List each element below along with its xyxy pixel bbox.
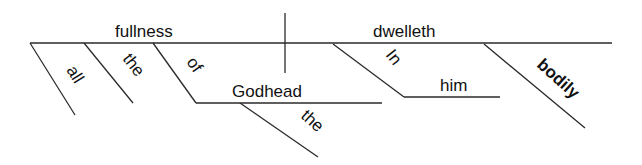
modifier-line-the [84, 43, 133, 103]
modifier-word-the: the [119, 50, 149, 80]
preposition-word-of: of [183, 53, 207, 76]
preposition-word-in: In [382, 46, 406, 69]
object-word-godhead: Godhead [232, 82, 302, 101]
modifier-word-the-godhead: the [297, 106, 327, 136]
subject-word: fullness [115, 22, 173, 41]
diagram-canvas: fullness dwelleth all the of Godhead the… [0, 0, 642, 165]
sentence-diagram: fullness dwelleth all the of Godhead the… [0, 0, 642, 165]
verb-word: dwelleth [373, 22, 435, 41]
modifier-word-bodily: bodily [533, 55, 583, 103]
modifier-word-all: all [63, 62, 88, 86]
object-word-him: him [440, 76, 467, 95]
